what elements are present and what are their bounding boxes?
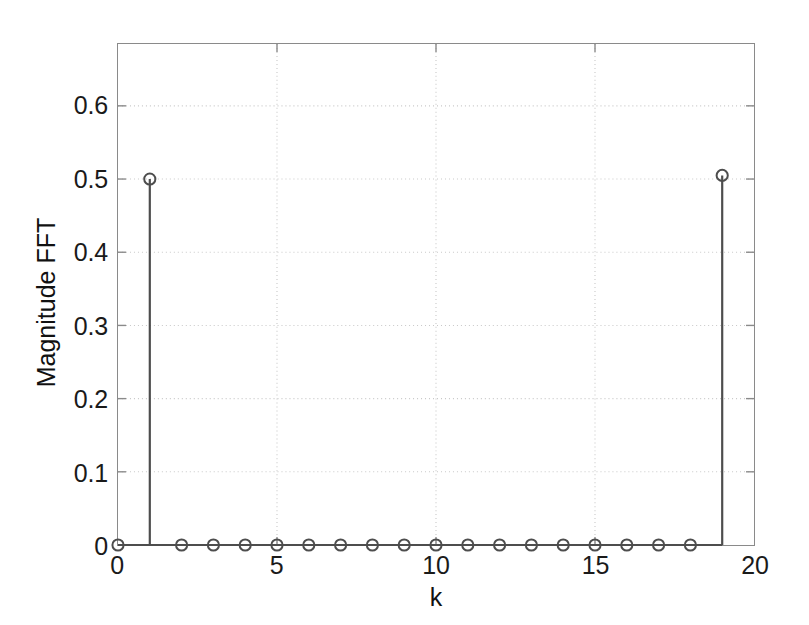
x-tick-label: 0 [110, 551, 124, 580]
y-tick-label: 0 [94, 532, 108, 561]
x-axis-title: k [117, 583, 755, 612]
x-tick-label: 20 [741, 551, 768, 580]
y-tick-label: 0.6 [74, 91, 108, 120]
plot-area [117, 43, 755, 546]
stem-plot-series [118, 44, 754, 545]
y-tick-label: 0.3 [74, 311, 108, 340]
y-tick-label: 0.2 [74, 385, 108, 414]
y-tick-label: 0.1 [74, 458, 108, 487]
y-tick-label: 0.5 [74, 164, 108, 193]
x-tick-label: 10 [422, 551, 449, 580]
y-tick-label: 0.4 [74, 238, 108, 267]
x-tick-label: 5 [270, 551, 284, 580]
x-tick-label: 15 [582, 551, 609, 580]
y-axis-title: Magnitude FFT [32, 153, 61, 453]
figure-canvas: 00.10.20.30.40.50.6 05101520 k Magnitude… [0, 0, 809, 625]
x-axis-tick-labels: 05101520 [117, 551, 755, 585]
